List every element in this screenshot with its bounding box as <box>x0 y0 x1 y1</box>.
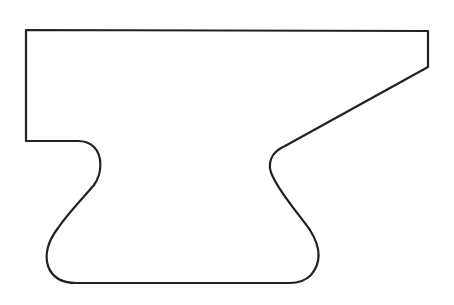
diagram-canvas <box>0 0 454 305</box>
anvil-icon <box>0 0 454 305</box>
anvil-outline <box>26 30 428 283</box>
